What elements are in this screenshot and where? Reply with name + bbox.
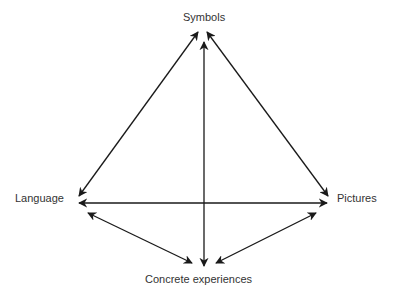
edge-language-concrete	[88, 213, 192, 263]
node-language: Language	[15, 192, 64, 204]
node-symbols: Symbols	[183, 11, 225, 23]
edge-symbols-pictures	[207, 32, 328, 196]
edge-symbols-language	[79, 32, 198, 196]
node-pictures: Pictures	[337, 192, 377, 204]
diagram-canvas	[0, 0, 395, 301]
node-concrete-experiences: Concrete experiences	[145, 273, 252, 285]
edge-pictures-concrete	[216, 213, 316, 263]
